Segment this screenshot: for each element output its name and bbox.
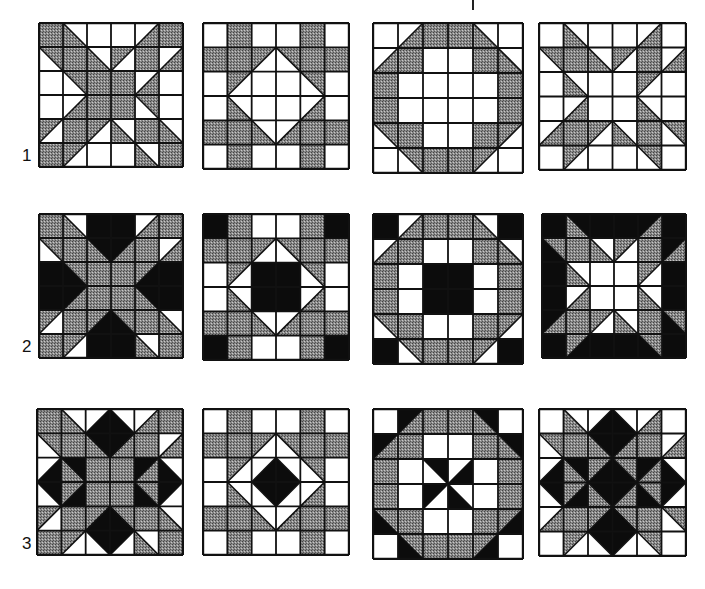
quilt-block — [538, 22, 687, 171]
quilt-block — [202, 408, 350, 556]
row-label: 3 — [22, 534, 31, 554]
quilt-block — [538, 408, 687, 557]
quilt-block — [372, 22, 524, 174]
quilt-block — [36, 408, 184, 556]
quilt-block — [541, 213, 687, 359]
quilt-block — [38, 213, 184, 359]
quilt-block — [38, 22, 184, 168]
top-divider-line — [472, 0, 474, 10]
row-label: 2 — [22, 337, 31, 357]
row-label: 1 — [22, 146, 31, 166]
quilt-block — [202, 213, 350, 361]
quilt-block — [372, 408, 524, 560]
quilt-block — [372, 213, 524, 365]
quilt-block — [202, 22, 350, 170]
